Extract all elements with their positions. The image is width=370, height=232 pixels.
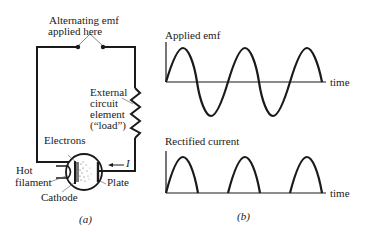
graph-rectified-current [166,151,326,193]
vacuum-tube [56,154,102,190]
label-plate: Plate [107,177,129,188]
label-filament: filament [15,177,52,188]
label-cathode: Cathode [41,192,78,203]
label-electrons: Electrons [44,135,86,146]
label-load-line4: (“load”) [90,120,126,131]
rectified-pulse-1 [166,157,198,193]
title-rectified-current: Rectified current [165,136,239,147]
label-current-I: I [126,158,130,169]
rectified-pulse-2 [228,157,260,193]
graph-applied-emf [166,42,326,116]
resistor-load [131,88,140,138]
rectified-pulse-3 [290,157,322,193]
caption-a: (a) [79,214,92,225]
wire-right-top [103,47,135,88]
terminal-right [101,45,105,49]
x-label-time-top: time [330,77,350,88]
x-label-time-bottom: time [330,188,350,199]
current-arrow [108,163,124,167]
terminal-left [76,45,80,49]
title-applied-emf: Applied emf [165,30,220,41]
label-emf-line2: applied here [48,26,102,37]
label-hot: Hot [16,165,33,176]
caption-b: (b) [237,211,250,222]
